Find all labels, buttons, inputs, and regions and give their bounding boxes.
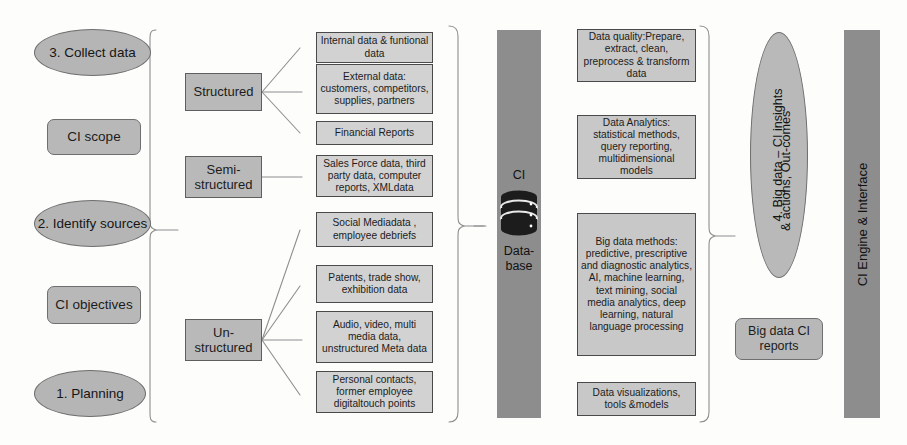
source-box-financial-reports[interactable]: Financial Reports [316,121,433,145]
connectors-unstructured [262,230,302,395]
big-data-ci-reports[interactable]: Big data CI reports [735,318,823,360]
data-type-unstructured[interactable]: Un-structured [185,319,262,361]
stage-ci-scope[interactable]: CI scope [47,119,141,155]
brace-stages [150,30,156,422]
brace-sources [449,26,464,422]
diagram-canvas: 3. Collect data CI scope 2. Identify sou… [0,0,907,445]
analytics-box-big-data-methods[interactable]: Big data methods: predictive, prescripti… [577,213,696,356]
source-box-personal-contacts[interactable]: Personal contacts, former employee digit… [316,371,433,413]
source-box-audio-video-multimedia[interactable]: Audio, video, multi media data, unstruct… [316,311,433,363]
source-box-sales-force-data[interactable]: Sales Force data, third party data, comp… [316,155,433,197]
data-type-structured[interactable]: Structured [185,73,262,111]
data-type-semi-structured[interactable]: Semi-structured [185,156,262,198]
stage-ci-objectives[interactable]: CI objectives [47,286,141,324]
analytics-box-data-visualizations[interactable]: Data visualizations, tools &models [577,382,696,416]
source-box-social-media-data[interactable]: Social Mediadata , employee debriefs [316,212,433,247]
stage-collect-data[interactable]: 3. Collect data [34,29,151,76]
outcome-ellipse-line2: & actions, Out-comes [779,91,795,251]
connectors-structured [262,48,302,133]
source-box-external-data[interactable]: External data: customers, competitors, s… [316,64,433,114]
analytics-box-data-analytics[interactable]: Data Analytics: statistical methods, que… [577,115,696,179]
ci-database-label-data: Data- [484,244,554,258]
analytics-box-data-quality[interactable]: Data quality:Prepare, extract, clean, pr… [577,29,696,82]
brace-analytics [700,26,715,422]
source-box-internal-data[interactable]: Internal data & funtional data [316,32,433,63]
stage-planning[interactable]: 1. Planning [34,370,146,417]
database-icon [500,189,538,241]
ci-database-label-base: base [484,259,554,273]
source-box-patents-trade-show[interactable]: Patents, trade show, exhibition data [316,265,433,303]
stage-identify-sources[interactable]: 2. Identify sources [34,200,151,247]
ci-engine-label: CI Engine & Interface [855,155,870,295]
ci-database-label-ci: CI [484,168,554,182]
